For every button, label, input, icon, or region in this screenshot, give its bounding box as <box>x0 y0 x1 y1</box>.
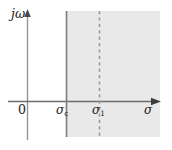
real-axis-label: σ <box>144 104 152 116</box>
sigma-c-label: σc <box>56 104 68 118</box>
origin-label: 0 <box>18 104 26 117</box>
sigma-c-label-base: σ <box>56 103 64 117</box>
imaginary-axis-label: jω <box>11 8 25 21</box>
imaginary-axis-arrowhead <box>24 9 31 17</box>
figure-canvas <box>0 0 172 150</box>
s-plane-roc-figure: jω 0 σc σ1 σ <box>0 0 172 150</box>
region-of-convergence-shading <box>66 11 160 137</box>
sigma-1-label-subscript: 1 <box>100 109 105 118</box>
sigma-1-label: σ1 <box>92 104 105 118</box>
sigma-c-label-subscript: c <box>64 109 68 118</box>
sigma-1-label-base: σ <box>92 103 100 117</box>
